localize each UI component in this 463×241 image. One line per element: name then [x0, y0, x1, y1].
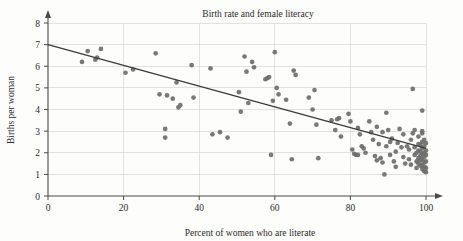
data-point	[333, 128, 338, 133]
data-point	[416, 134, 421, 139]
data-point	[424, 141, 429, 146]
data-point	[363, 150, 368, 155]
data-point	[316, 156, 321, 161]
data-point	[284, 97, 289, 102]
data-point	[393, 164, 398, 169]
data-point	[242, 54, 247, 59]
data-point	[424, 148, 429, 153]
data-point	[178, 103, 183, 108]
data-point	[424, 166, 429, 171]
data-point	[246, 101, 251, 106]
data-point	[407, 157, 412, 162]
data-point	[191, 95, 196, 100]
data-point	[358, 132, 363, 137]
data-point	[238, 109, 243, 114]
data-point	[276, 92, 281, 97]
data-point	[269, 153, 274, 158]
y-tick-label: 7	[35, 40, 40, 50]
y-tick-label: 5	[35, 83, 40, 93]
data-point	[350, 147, 355, 152]
data-point	[420, 108, 425, 113]
data-point	[123, 70, 128, 75]
data-point	[208, 66, 213, 71]
scatter-plot-svg: 012345678020406080100 Birth rate and fem…	[0, 0, 463, 241]
data-point	[163, 127, 168, 132]
x-tick-label: 0	[46, 203, 51, 213]
data-point	[310, 107, 315, 112]
data-point	[210, 132, 215, 137]
data-point	[157, 92, 162, 97]
plot-background	[0, 0, 463, 241]
x-tick-label: 80	[346, 203, 356, 213]
data-point	[272, 50, 277, 55]
data-point	[306, 95, 311, 100]
data-point	[252, 65, 257, 70]
data-point	[356, 153, 361, 158]
data-point	[85, 49, 90, 54]
data-point	[225, 135, 230, 140]
x-tick-label: 60	[270, 203, 280, 213]
data-point	[424, 170, 429, 175]
data-point	[153, 51, 158, 56]
y-tick-label: 4	[35, 105, 40, 115]
data-point	[401, 132, 406, 137]
data-point	[420, 131, 425, 136]
data-point	[274, 86, 279, 91]
data-point	[380, 130, 385, 135]
data-point	[337, 116, 342, 121]
data-point	[312, 88, 317, 93]
data-point	[410, 87, 415, 92]
data-point	[373, 154, 378, 159]
data-point	[361, 146, 366, 151]
data-point	[99, 47, 104, 52]
data-point	[424, 159, 429, 164]
data-point	[407, 147, 412, 152]
data-point	[386, 128, 391, 133]
data-point	[267, 75, 272, 80]
y-tick-label: 6	[35, 62, 40, 72]
data-point	[376, 142, 381, 147]
y-tick-label: 3	[35, 127, 40, 137]
data-point	[291, 68, 296, 73]
x-axis-label: Percent of women who are literate	[185, 228, 316, 238]
data-point	[237, 90, 242, 95]
data-point	[424, 153, 429, 158]
data-point	[367, 119, 372, 124]
data-point	[409, 137, 414, 142]
data-point	[412, 128, 417, 133]
data-point	[388, 153, 393, 158]
y-tick-label: 2	[35, 148, 40, 158]
y-tick-label: 1	[35, 170, 40, 180]
data-point	[382, 172, 387, 177]
data-point	[399, 145, 404, 150]
data-point	[375, 124, 380, 129]
data-point	[293, 73, 298, 78]
data-point	[165, 93, 170, 98]
y-tick-label: 8	[35, 19, 40, 29]
data-point	[371, 137, 376, 142]
data-point	[384, 110, 389, 115]
data-point	[339, 134, 344, 139]
data-point	[380, 160, 385, 165]
x-tick-label: 40	[194, 203, 204, 213]
data-point	[397, 127, 402, 132]
data-point	[314, 122, 319, 127]
data-point	[80, 60, 85, 65]
data-point	[409, 162, 414, 167]
chart-title: Birth rate and female literacy	[202, 9, 314, 19]
data-point	[401, 155, 406, 160]
data-point	[348, 119, 353, 124]
data-point	[163, 135, 168, 140]
y-tick-label: 0	[35, 192, 40, 202]
data-point	[189, 63, 194, 68]
data-point	[346, 111, 351, 116]
data-point	[244, 69, 249, 74]
data-point	[218, 130, 223, 135]
data-point	[392, 159, 397, 164]
data-point	[288, 121, 293, 126]
data-point	[375, 158, 380, 163]
data-point	[271, 99, 276, 104]
x-tick-label: 20	[119, 203, 129, 213]
data-point	[393, 149, 398, 154]
chart-figure: 012345678020406080100 Birth rate and fem…	[0, 0, 463, 241]
